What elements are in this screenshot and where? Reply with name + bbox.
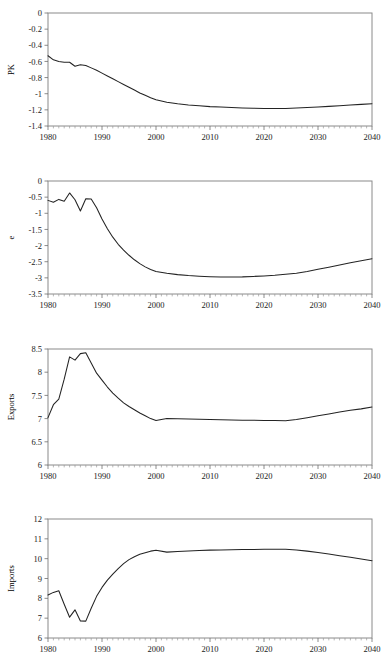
y-ticks: 1211109876 <box>34 514 49 643</box>
y-tick-label: 0 <box>38 8 42 18</box>
y-axis-title: PK <box>6 63 16 75</box>
x-tick-label: 1980 <box>40 300 57 310</box>
x-tick-label: 2010 <box>202 644 219 654</box>
x-tick-label: 2020 <box>256 471 273 481</box>
x-tick-label: 2030 <box>310 132 327 142</box>
series-line <box>48 56 372 109</box>
y-tick-label: 6.5 <box>31 437 42 447</box>
x-tick-label: 2020 <box>256 132 273 142</box>
chart-panel-exports: 8.587.576.561980199020002010202020302040… <box>0 336 383 491</box>
x-tick-label: 1980 <box>40 132 57 142</box>
y-tick-label: -2.5 <box>29 257 42 267</box>
chart-panel-pk: 0-0.2-0.4-0.6-0.8-1-1.2-1.41980199020002… <box>0 0 383 152</box>
y-tick-label: 12 <box>34 514 43 524</box>
y-ticks: 0-0.5-1-1.5-2-2.5-3-3.5 <box>29 176 48 299</box>
y-tick-label: 9 <box>38 574 42 584</box>
y-tick-label: -1.4 <box>29 121 43 131</box>
x-tick-label: 2040 <box>364 132 381 142</box>
y-tick-label: -1.5 <box>29 225 42 235</box>
x-minor-ticks <box>48 126 372 130</box>
x-tick-label: 2010 <box>202 300 219 310</box>
x-tick-labels: 1980199020002010202020302040 <box>40 471 381 481</box>
x-tick-label: 1990 <box>94 644 111 654</box>
y-ticks: 0-0.2-0.4-0.6-0.8-1-1.2-1.4 <box>29 8 48 131</box>
x-tick-label: 1990 <box>94 132 111 142</box>
chart-svg-pk: 0-0.2-0.4-0.6-0.8-1-1.2-1.41980199020002… <box>0 0 383 152</box>
x-tick-label: 2000 <box>148 644 165 654</box>
y-tick-label: -0.5 <box>29 192 42 202</box>
x-tick-label: 1990 <box>94 300 111 310</box>
y-tick-label: -1 <box>35 208 42 218</box>
x-tick-label: 2040 <box>364 471 381 481</box>
y-axis-title: Imports <box>6 565 16 591</box>
x-tick-labels: 1980199020002010202020302040 <box>40 132 381 142</box>
y-tick-label: 6 <box>38 633 42 643</box>
y-tick-label: 8 <box>38 593 42 603</box>
x-tick-label: 1980 <box>40 644 57 654</box>
x-tick-label: 2030 <box>310 300 327 310</box>
x-minor-ticks <box>48 638 372 642</box>
x-tick-label: 2030 <box>310 644 327 654</box>
plot-frame <box>48 519 372 638</box>
series-line <box>48 549 372 621</box>
y-tick-label: 7 <box>38 613 42 623</box>
y-tick-label: -3 <box>35 273 42 283</box>
x-tick-label: 2000 <box>148 300 165 310</box>
x-tick-label: 2020 <box>256 300 273 310</box>
series-line <box>48 353 372 421</box>
x-tick-label: 2040 <box>364 644 381 654</box>
plot-frame <box>48 349 372 465</box>
chart-panel-imports: 12111098761980199020002010202020302040Im… <box>0 506 383 664</box>
x-minor-ticks <box>48 294 372 298</box>
y-axis-title: e <box>6 235 16 239</box>
y-tick-label: 0 <box>38 176 42 186</box>
chart-svg-e: 0-0.5-1-1.5-2-2.5-3-3.519801990200020102… <box>0 168 383 320</box>
y-tick-label: -0.6 <box>29 57 42 67</box>
x-tick-label: 2000 <box>148 471 165 481</box>
chart-svg-exports: 8.587.576.561980199020002010202020302040… <box>0 336 383 491</box>
y-tick-label: 6 <box>38 460 42 470</box>
x-tick-label: 1980 <box>40 471 57 481</box>
plot-frame <box>48 13 372 126</box>
series-line <box>48 193 372 277</box>
x-minor-ticks <box>48 465 372 469</box>
y-tick-label: 8.5 <box>31 344 42 354</box>
x-tick-label: 2040 <box>364 300 381 310</box>
y-tick-label: -0.8 <box>29 73 42 83</box>
x-tick-label: 2010 <box>202 132 219 142</box>
y-tick-label: 7 <box>38 414 42 424</box>
y-tick-label: -3.5 <box>29 289 42 299</box>
y-tick-label: -1.2 <box>29 105 42 115</box>
x-tick-label: 1990 <box>94 471 111 481</box>
y-tick-label: -0.2 <box>29 24 42 34</box>
x-tick-label: 2020 <box>256 644 273 654</box>
y-tick-label: 11 <box>34 534 42 544</box>
chart-panel-e: 0-0.5-1-1.5-2-2.5-3-3.519801990200020102… <box>0 168 383 320</box>
x-tick-label: 2010 <box>202 471 219 481</box>
chart-svg-imports: 12111098761980199020002010202020302040Im… <box>0 506 383 664</box>
y-tick-label: 8 <box>38 367 42 377</box>
x-tick-labels: 1980199020002010202020302040 <box>40 644 381 654</box>
y-axis-title: Exports <box>6 394 16 420</box>
x-tick-label: 2000 <box>148 132 165 142</box>
x-tick-labels: 1980199020002010202020302040 <box>40 300 381 310</box>
y-tick-label: 7.5 <box>31 391 42 401</box>
figure-container: 0-0.2-0.4-0.6-0.8-1-1.2-1.41980199020002… <box>0 0 383 666</box>
y-tick-label: 10 <box>34 554 43 564</box>
y-tick-label: -1 <box>35 89 42 99</box>
y-ticks: 8.587.576.56 <box>31 344 48 470</box>
y-tick-label: -2 <box>35 241 42 251</box>
x-tick-label: 2030 <box>310 471 327 481</box>
y-tick-label: -0.4 <box>29 40 43 50</box>
